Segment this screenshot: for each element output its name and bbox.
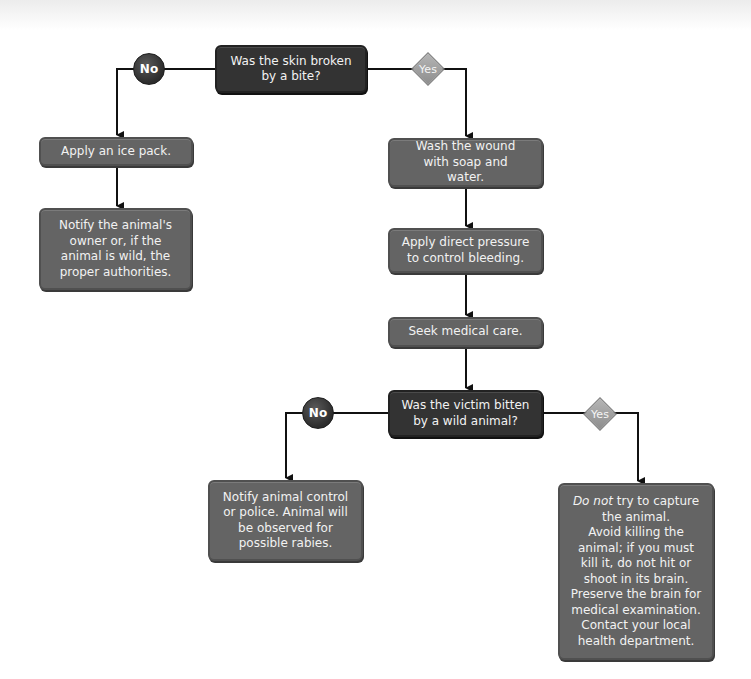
decision-skin-broken: Was the skin broken by a bite? xyxy=(215,45,367,93)
step-wash-wound: Wash the wound with soap and water. xyxy=(388,138,543,187)
no-badge-decision1: No xyxy=(133,53,165,85)
yes-label: Yes xyxy=(583,397,617,431)
instruction-rest: try to capture the animal. xyxy=(602,494,699,524)
step-text: Seek medical care. xyxy=(408,324,522,340)
step-notify-animal-control: Notify animal control or police. Animal … xyxy=(208,480,363,561)
step-text: Wash the wound with soap and water. xyxy=(404,139,527,186)
step-text: Apply an ice pack. xyxy=(61,144,171,160)
no-label: No xyxy=(309,406,327,420)
flowchart-canvas: Was the skin broken by a bite? No Yes Ap… xyxy=(0,0,751,679)
no-badge-decision2: No xyxy=(302,397,334,429)
no-label: No xyxy=(140,62,158,76)
step-wild-animal-instructions: Do not try to capture the animal. Avoid … xyxy=(558,483,714,660)
step-text: Apply direct pressure to control bleedin… xyxy=(398,235,533,266)
decision-wild-animal-text: Was the victim bitten by a wild animal? xyxy=(398,398,533,429)
step-apply-ice-pack: Apply an ice pack. xyxy=(39,137,193,166)
instruction-do-not-capture: Do not try to capture the animal. xyxy=(568,494,704,525)
step-seek-medical-care: Seek medical care. xyxy=(388,317,543,347)
step-text: Notify animal control or police. Animal … xyxy=(220,490,351,552)
yes-badge-decision2: Yes xyxy=(583,397,617,431)
yes-badge-decision1: Yes xyxy=(411,52,445,86)
step-apply-pressure: Apply direct pressure to control bleedin… xyxy=(388,228,543,273)
instruction-list: Do not try to capture the animal. Avoid … xyxy=(568,494,704,649)
decision-wild-animal: Was the victim bitten by a wild animal? xyxy=(388,390,543,437)
instruction-preserve-brain: Preserve the brain for medical examinati… xyxy=(568,587,704,618)
emphasis-do-not: Do not xyxy=(573,494,613,508)
step-notify-owner: Notify the animal's owner or, if the ani… xyxy=(39,208,192,290)
decision-skin-broken-text: Was the skin broken by a bite? xyxy=(225,54,357,85)
yes-label: Yes xyxy=(411,52,445,86)
instruction-avoid-killing: Avoid killing the animal; if you must ki… xyxy=(568,525,704,587)
instruction-contact-health-dept: Contact your local health department. xyxy=(568,618,704,649)
step-text: Notify the animal's owner or, if the ani… xyxy=(51,218,180,280)
